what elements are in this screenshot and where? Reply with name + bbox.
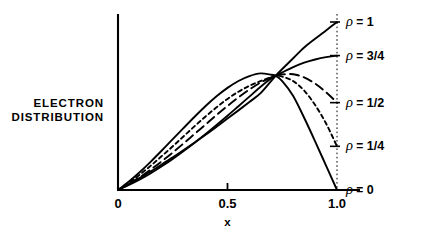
x-axis-title: x bbox=[198, 216, 258, 228]
y-axis-title: ELECTRON DISTRIBUTION bbox=[4, 96, 104, 124]
series-label-rho-0: ρ = 0 bbox=[346, 182, 374, 197]
x-tick-label-2: 1.0 bbox=[307, 196, 367, 211]
equals-symbol: = bbox=[356, 49, 363, 63]
rho-symbol: ρ bbox=[346, 181, 353, 197]
y-axis-title-line-2: DISTRIBUTION bbox=[4, 110, 104, 124]
series-label-rho-3-4: ρ = 3/4 bbox=[346, 48, 384, 63]
series-value: 0 bbox=[367, 183, 374, 197]
curves-group bbox=[118, 14, 340, 190]
equals-symbol: = bbox=[356, 183, 363, 197]
curve-rho-3-4 bbox=[118, 56, 337, 190]
equals-symbol: = bbox=[356, 15, 363, 29]
series-value: 3/4 bbox=[367, 49, 384, 63]
rho-symbol: ρ bbox=[346, 137, 353, 153]
equals-symbol: = bbox=[356, 96, 363, 110]
rho-symbol: ρ bbox=[346, 94, 353, 110]
x-tick-label-1: 0.5 bbox=[198, 196, 258, 211]
series-value: 1/2 bbox=[367, 96, 384, 110]
series-label-rho-1-4: ρ = 1/4 bbox=[346, 138, 384, 153]
rho-symbol: ρ bbox=[346, 47, 353, 63]
y-axis-title-line-1: ELECTRON bbox=[4, 96, 104, 110]
equals-symbol: = bbox=[356, 139, 363, 153]
rho-symbol: ρ bbox=[346, 13, 353, 29]
series-label-rho-1-2: ρ = 1/2 bbox=[346, 95, 384, 110]
series-label-rho-1: ρ = 1 bbox=[346, 14, 374, 29]
series-value: 1/4 bbox=[367, 139, 384, 153]
x-tick-label-0: 0 bbox=[88, 196, 148, 211]
figure-root: ELECTRON DISTRIBUTION 00.51.0 x ρ = 1ρ =… bbox=[0, 0, 423, 244]
series-value: 1 bbox=[367, 15, 374, 29]
